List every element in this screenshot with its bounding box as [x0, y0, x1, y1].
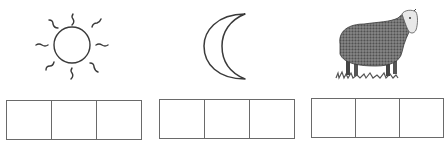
letter-box[interactable]	[250, 100, 294, 138]
letter-boxes-sun	[6, 100, 142, 140]
letter-box[interactable]	[52, 101, 97, 139]
letter-box[interactable]	[160, 100, 205, 138]
letter-box[interactable]	[356, 99, 400, 137]
letter-box[interactable]	[312, 99, 356, 137]
letter-boxes-moon	[159, 99, 295, 139]
letter-box[interactable]	[97, 101, 141, 139]
letter-box[interactable]	[7, 101, 52, 139]
letter-box[interactable]	[400, 99, 443, 137]
moon-icon	[200, 10, 255, 82]
sheep-icon	[332, 8, 422, 84]
letter-boxes-sheep	[311, 98, 444, 138]
letter-box[interactable]	[205, 100, 250, 138]
sun-icon	[28, 10, 118, 90]
